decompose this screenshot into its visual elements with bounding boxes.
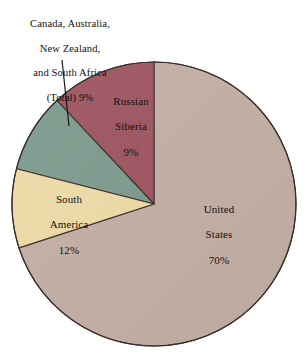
united-states-line-2: States <box>186 228 252 241</box>
callout-line-3: and South Africa <box>2 67 138 79</box>
russian-siberia-line-1: Russian <box>100 95 162 108</box>
callout-line-2: New Zealand, <box>2 43 138 55</box>
south-america-line-2: America <box>32 218 106 231</box>
russian-siberia-line-2: Siberia <box>100 120 162 133</box>
russian-siberia-percent: 9% <box>100 146 162 159</box>
pie-chart: Canada, Australia, New Zealand, and Sout… <box>0 0 306 358</box>
united-states-percent: 70% <box>186 254 252 267</box>
slice-label-united-states: United States 70% <box>186 190 252 279</box>
callout-line-1: Canada, Australia, <box>2 18 138 30</box>
slice-label-south-america: South America 12% <box>32 180 106 269</box>
united-states-line-1: United <box>186 203 252 216</box>
slice-label-russian-siberia: Russian Siberia 9% <box>100 82 162 171</box>
south-america-line-1: South <box>32 193 106 206</box>
south-america-percent: 12% <box>32 244 106 257</box>
